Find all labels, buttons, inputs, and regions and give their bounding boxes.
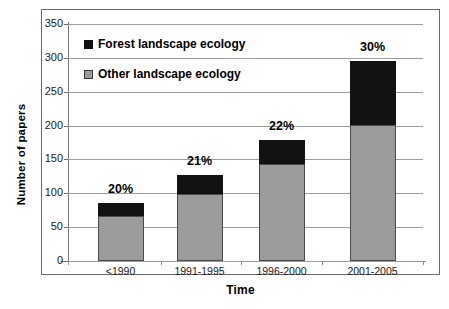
x-axis-title: Time bbox=[41, 283, 440, 297]
y-tick-mark bbox=[64, 159, 68, 160]
x-tick-mark bbox=[423, 261, 424, 265]
y-tick-label: 0 bbox=[33, 255, 63, 266]
bar-segment-forest-landscape-ecology[interactable] bbox=[350, 61, 396, 125]
bar-group[interactable] bbox=[350, 24, 396, 261]
x-tick-mark bbox=[322, 261, 323, 265]
y-tick-mark bbox=[64, 227, 68, 228]
y-axis-title-label: Number of papers bbox=[15, 104, 27, 206]
x-tick-label: 1996-2000 bbox=[232, 265, 332, 277]
y-tick-label: 350 bbox=[33, 18, 63, 29]
y-tick-label: 150 bbox=[33, 153, 63, 164]
y-tick-mark bbox=[64, 58, 68, 59]
legend-swatch-forest-icon bbox=[84, 40, 93, 49]
legend-swatch-other-icon bbox=[84, 70, 93, 79]
y-tick-mark bbox=[64, 193, 68, 194]
y-tick-mark bbox=[64, 126, 68, 127]
bar-percentage-label: 21% bbox=[160, 154, 240, 168]
y-tick-label: 50 bbox=[33, 221, 63, 232]
y-tick-label: 250 bbox=[33, 86, 63, 97]
x-tick-mark bbox=[161, 261, 162, 265]
legend-label-forest: Forest landscape ecology bbox=[98, 37, 245, 51]
bar-segment-other-landscape-ecology[interactable] bbox=[177, 194, 223, 261]
bar-segment-other-landscape-ecology[interactable] bbox=[350, 125, 396, 261]
x-tick-label: 2001-2005 bbox=[323, 265, 423, 277]
bar-segment-other-landscape-ecology[interactable] bbox=[259, 164, 305, 261]
y-tick-label: 200 bbox=[33, 120, 63, 131]
bar-percentage-label: 22% bbox=[242, 119, 322, 133]
gridline bbox=[68, 261, 423, 262]
y-tick-label: 100 bbox=[33, 187, 63, 198]
legend-label-other: Other landscape ecology bbox=[98, 67, 241, 81]
legend-item-other: Other landscape ecology bbox=[84, 64, 314, 84]
legend-item-forest: Forest landscape ecology bbox=[84, 34, 314, 54]
chart-legend: Forest landscape ecology Other landscape… bbox=[84, 34, 314, 94]
x-tick-mark bbox=[241, 261, 242, 265]
y-tick-label: 300 bbox=[33, 52, 63, 63]
bar-percentage-label: 20% bbox=[81, 182, 161, 196]
bar-segment-other-landscape-ecology[interactable] bbox=[98, 216, 144, 261]
y-axis-ticks: 050100150200250300350 bbox=[30, 24, 63, 261]
bar-segment-forest-landscape-ecology[interactable] bbox=[98, 203, 144, 217]
y-tick-mark bbox=[64, 24, 68, 25]
bar-segment-forest-landscape-ecology[interactable] bbox=[177, 175, 223, 194]
bar-percentage-label: 30% bbox=[333, 40, 413, 54]
y-tick-mark bbox=[64, 92, 68, 93]
bar-segment-forest-landscape-ecology[interactable] bbox=[259, 140, 305, 164]
x-tick-mark bbox=[68, 261, 69, 265]
